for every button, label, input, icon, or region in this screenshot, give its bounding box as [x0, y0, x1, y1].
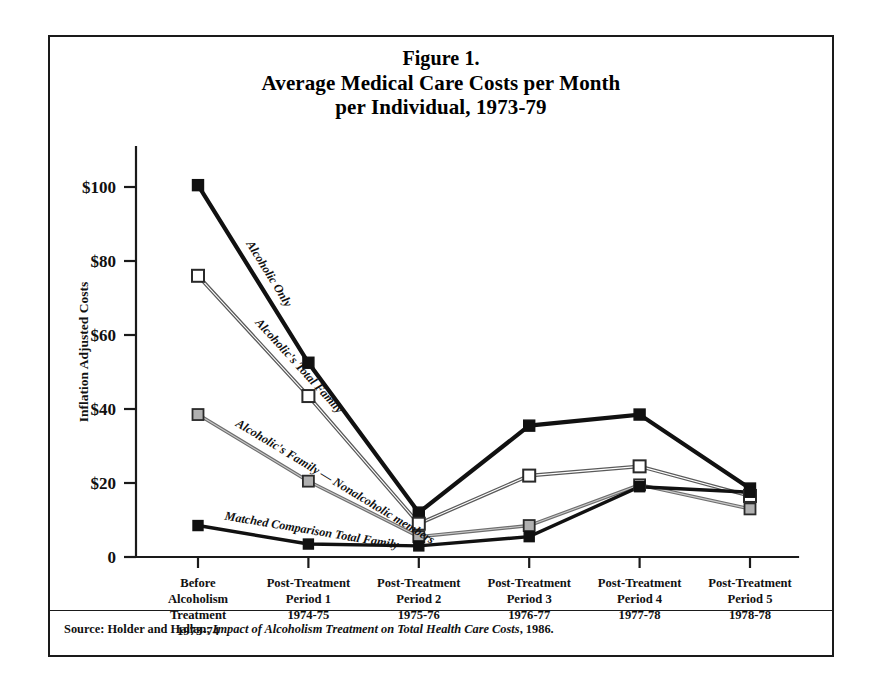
- data-point-marker: [303, 539, 313, 549]
- series-annotations: Alcoholic OnlyAlcoholic's Total FamilyAl…: [223, 237, 438, 552]
- data-point-marker: [193, 521, 203, 531]
- source-suffix: , 1986.: [520, 622, 554, 636]
- figure-frame: Figure 1. Average Medical Care Costs per…: [48, 35, 834, 657]
- data-point-marker: [634, 409, 645, 420]
- x-tick-label: Post-TreatmentPeriod 21975-76: [377, 576, 461, 622]
- series-markers: [192, 180, 756, 551]
- y-axis-title: Inflation Adjusted Costs: [76, 282, 91, 422]
- data-point-marker: [414, 541, 424, 551]
- y-tick-label: $60: [91, 326, 117, 345]
- chart-plot-area: 0$20$40$60$80$100 BeforeAlcoholismTreatm…: [50, 37, 836, 659]
- data-point-marker: [303, 476, 314, 487]
- source-title: Impact of Alcoholism Treatment on Total …: [213, 622, 520, 636]
- x-axis-ticks: [198, 557, 750, 568]
- series-line: [198, 487, 750, 546]
- x-tick-label: Post-TreatmentPeriod 41977-78: [598, 576, 682, 622]
- y-tick-label: $20: [91, 474, 117, 493]
- data-point-marker: [634, 460, 646, 472]
- y-tick-label: $40: [91, 400, 117, 419]
- data-point-marker: [524, 420, 535, 431]
- y-tick-label: $80: [91, 252, 117, 271]
- data-point-marker: [193, 409, 204, 420]
- data-point-marker: [635, 482, 645, 492]
- y-tick-label: 0: [108, 548, 117, 567]
- data-point-marker: [524, 532, 534, 542]
- y-tick-label: $100: [82, 178, 116, 197]
- source-divider: [50, 610, 832, 611]
- x-tick-label: Post-TreatmentPeriod 11974-75: [267, 576, 351, 622]
- data-point-marker: [523, 470, 535, 482]
- data-point-marker: [302, 390, 314, 402]
- chart-axes: [136, 147, 798, 557]
- data-point-marker: [745, 487, 755, 497]
- y-axis-ticks: [124, 187, 136, 557]
- line-chart: 0$20$40$60$80$100 BeforeAlcoholismTreatm…: [50, 37, 836, 659]
- data-point-marker: [745, 503, 756, 514]
- source-prefix: Source: Holder and Hallan,: [64, 622, 213, 636]
- x-tick-label: Post-TreatmentPeriod 31976-77: [487, 576, 571, 622]
- data-point-marker: [413, 507, 424, 518]
- series-annotation-label: Alcoholic's Total Family: [252, 315, 347, 417]
- data-point-marker: [192, 270, 204, 282]
- data-point-marker: [193, 180, 204, 191]
- data-point-marker: [524, 520, 535, 531]
- source-note: Source: Holder and Hallan, Impact of Alc…: [64, 622, 554, 637]
- x-tick-label: Post-TreatmentPeriod 51978-78: [708, 576, 792, 622]
- series-lines: [198, 185, 750, 546]
